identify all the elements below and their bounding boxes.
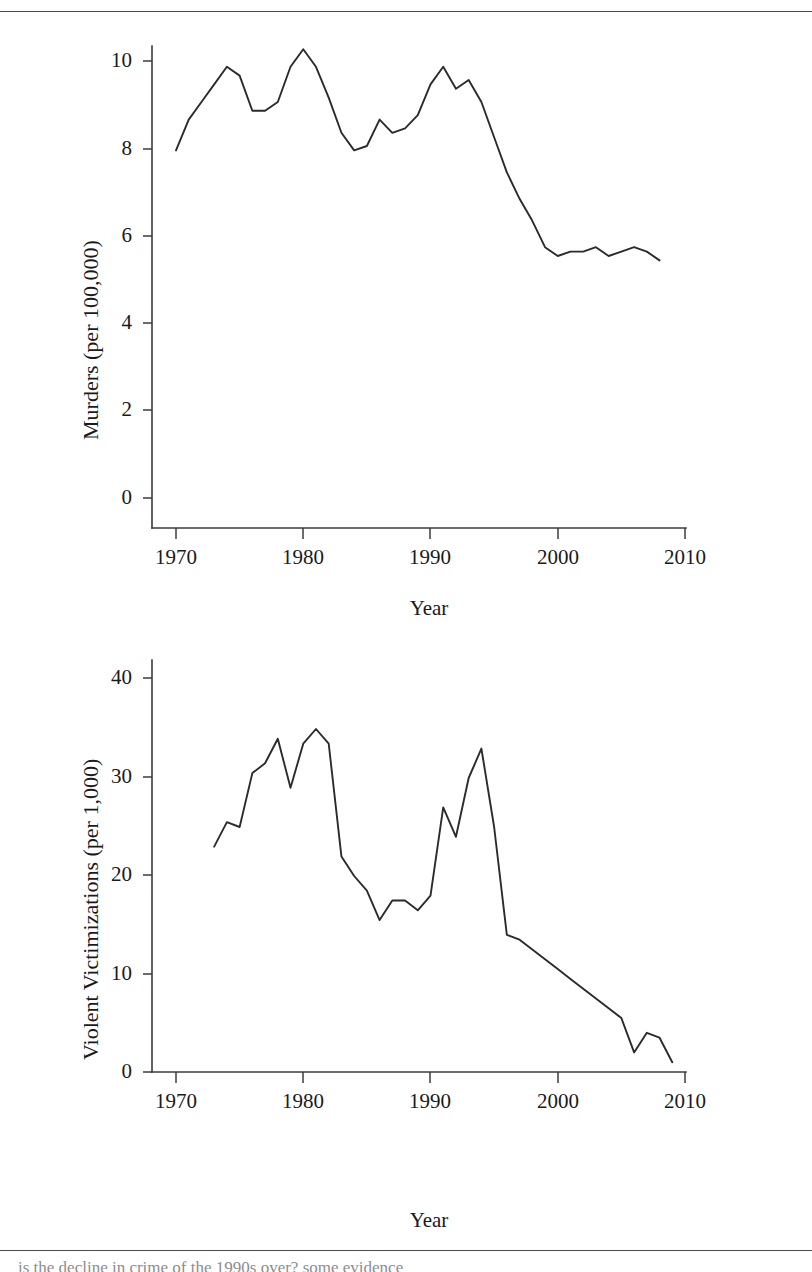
- victimizations-series-line: [214, 729, 672, 1062]
- victimizations-ytick-0: 0: [88, 1061, 132, 1082]
- victimizations-xtick-2010: 2010: [645, 1091, 725, 1112]
- murders-x-ticks: [176, 528, 685, 539]
- top-horizontal-rule: [0, 11, 812, 12]
- murders-x-axis-title: Year: [379, 596, 479, 621]
- victimizations-y-axis-title: Violent Victimizations (per 1,000): [78, 759, 104, 1060]
- murders-ytick-10: 10: [88, 50, 132, 71]
- victimizations-y-ticks: [143, 678, 152, 1072]
- murders-xtick-1970: 1970: [136, 547, 216, 568]
- murders-ytick-8: 8: [88, 138, 132, 159]
- panel-violent-victimizations: 40 30 20 10 0 1970 1980 1990 2000 2010 Y…: [0, 630, 812, 1240]
- victimizations-ytick-40: 40: [88, 667, 132, 688]
- bottom-horizontal-rule: [0, 1250, 812, 1251]
- murders-xtick-1990: 1990: [390, 547, 470, 568]
- victimizations-x-ticks: [176, 1072, 685, 1083]
- victimizations-xtick-2000: 2000: [518, 1091, 598, 1112]
- victimizations-xtick-1990: 1990: [390, 1091, 470, 1112]
- murders-series-line: [176, 49, 660, 260]
- victimizations-xtick-1970: 1970: [136, 1091, 216, 1112]
- murders-ytick-0: 0: [88, 487, 132, 508]
- figure-page: 10 8 6 4 2 0 1970 1980 1990 2000 2010 Ye…: [0, 0, 812, 1272]
- victimizations-plot-svg: [0, 630, 812, 1240]
- panel-murders: 10 8 6 4 2 0 1970 1980 1990 2000 2010 Ye…: [0, 20, 812, 620]
- victimizations-xtick-1980: 1980: [263, 1091, 343, 1112]
- murders-y-axis-title: Murders (per 100,000): [78, 240, 104, 440]
- murders-xtick-2010: 2010: [645, 547, 725, 568]
- victimizations-x-axis-title: Year: [379, 1208, 479, 1233]
- caption-partial-text: is the decline in crime of the 1990s ove…: [18, 1258, 798, 1272]
- murders-y-ticks: [143, 61, 152, 498]
- murders-xtick-2000: 2000: [518, 547, 598, 568]
- murders-xtick-1980: 1980: [263, 547, 343, 568]
